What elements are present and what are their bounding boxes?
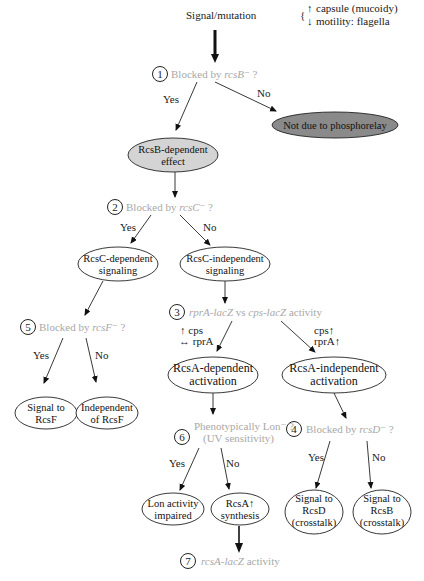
svg-text:1: 1 bbox=[157, 68, 163, 80]
edge-label-yes: Yes bbox=[33, 349, 49, 361]
edge-q1-yes bbox=[176, 82, 197, 130]
svg-text:RcsD: RcsD bbox=[302, 505, 326, 516]
svg-text:synthesis: synthesis bbox=[221, 510, 260, 521]
svg-text:(crosstalk): (crosstalk) bbox=[360, 517, 405, 529]
svg-text:5: 5 bbox=[25, 321, 31, 333]
svg-text:signaling: signaling bbox=[99, 265, 138, 276]
thick-arrowhead-icon bbox=[211, 54, 219, 63]
svg-text:Phenotypically Lon⁻ ?: Phenotypically Lon⁻ ? bbox=[194, 420, 294, 432]
edge-label-yes: Yes bbox=[120, 221, 136, 233]
node-rcsc-dependent: RcsC-dependent signaling bbox=[78, 247, 158, 281]
edge-label-no: No bbox=[203, 221, 217, 233]
svg-text:rcsA-lacZ activity: rcsA-lacZ activity bbox=[201, 555, 280, 567]
edge-q3-left bbox=[217, 321, 232, 351]
root-label: Signal/mutation bbox=[186, 9, 257, 21]
edge-label-no: No bbox=[95, 349, 109, 361]
edge-q4-yes bbox=[316, 441, 330, 488]
node-rcsb-dependent: RcsB-dependent effect bbox=[128, 138, 218, 172]
edge-q3-right bbox=[281, 321, 315, 352]
node-independent-rcsf: Independent of RcsF bbox=[76, 397, 138, 429]
brace-icon: { bbox=[300, 9, 305, 21]
question-4: 4 Blocked by rcsD⁻ ? bbox=[287, 422, 394, 437]
edge-label-yes: Yes bbox=[169, 457, 185, 469]
question-5: 5 Blocked by rcsF⁻ ? bbox=[21, 320, 126, 335]
node-rcsa-dependent: RcsA-dependent activation bbox=[168, 357, 258, 393]
question-7: 7 rcsA-lacZ activity bbox=[181, 554, 281, 569]
svg-text:RcsA↑: RcsA↑ bbox=[226, 498, 255, 509]
q3-right-rpra: rprA↑ bbox=[314, 335, 340, 347]
svg-text:Blocked by rcsB⁻ ?: Blocked by rcsB⁻ ? bbox=[171, 68, 257, 80]
question-6: 6 Phenotypically Lon⁻ ? (UV sensitivity) bbox=[175, 420, 295, 445]
node-not-phosphorelay: Not due to phosphorelay bbox=[272, 112, 398, 138]
node-signal-rcsf: Signal to RcsF bbox=[15, 397, 77, 429]
flowchart: Signal/mutation { ↑ capsule (mucoidy) ↓ … bbox=[0, 0, 424, 581]
root-signal: Signal/mutation { ↑ capsule (mucoidy) ↓ … bbox=[186, 2, 398, 27]
svg-text:effect: effect bbox=[161, 156, 185, 167]
question-2: 2 Blocked by rcsC⁻ ? bbox=[108, 200, 214, 215]
edge-rcsa-indep-q4 bbox=[334, 393, 346, 418]
edge-q6-yes bbox=[180, 448, 199, 490]
up-arrow-icon: ↑ bbox=[307, 2, 313, 14]
svg-text:(UV sensitivity): (UV sensitivity) bbox=[203, 432, 274, 445]
node-lon-impaired: Lon activity impaired bbox=[142, 493, 204, 525]
svg-text:Signal to: Signal to bbox=[295, 493, 333, 504]
svg-text:of RcsF: of RcsF bbox=[91, 414, 124, 425]
svg-text:RcsA-independent: RcsA-independent bbox=[289, 361, 379, 375]
edge-q4-no bbox=[367, 441, 371, 488]
svg-text:6: 6 bbox=[179, 431, 185, 443]
down-arrow-icon: ↓ bbox=[307, 15, 313, 27]
node-rcsa-synthesis: RcsA↑ synthesis bbox=[211, 493, 269, 525]
arrowhead-icon bbox=[235, 543, 243, 553]
svg-text:3: 3 bbox=[174, 306, 180, 318]
edge-rcsc-dep-q5 bbox=[85, 281, 103, 315]
effect-capsule: capsule (mucoidy) bbox=[316, 2, 398, 15]
svg-text:Blocked by rcsD⁻ ?: Blocked by rcsD⁻ ? bbox=[306, 423, 394, 435]
svg-text:4: 4 bbox=[291, 423, 297, 435]
node-signal-rcsd: Signal to RcsD (crosstalk) bbox=[285, 490, 343, 534]
svg-text:Blocked by rcsF⁻ ?: Blocked by rcsF⁻ ? bbox=[39, 321, 125, 333]
svg-text:RcsC-independent: RcsC-independent bbox=[186, 253, 264, 264]
svg-text:RcsB-dependent: RcsB-dependent bbox=[138, 144, 207, 155]
svg-text:RcsF: RcsF bbox=[35, 414, 57, 425]
node-rcsa-independent: RcsA-independent activation bbox=[282, 357, 386, 393]
node-rcsc-independent: RcsC-independent signaling bbox=[180, 247, 270, 281]
question-1: 1 Blocked by rcsB⁻ ? bbox=[153, 67, 258, 82]
svg-text:Lon activity: Lon activity bbox=[147, 498, 199, 509]
svg-text:RcsB: RcsB bbox=[371, 505, 394, 516]
svg-text:Signal to: Signal to bbox=[27, 402, 65, 413]
svg-text:7: 7 bbox=[185, 555, 191, 567]
svg-text:signaling: signaling bbox=[206, 265, 245, 276]
svg-text:Not due to phosphorelay: Not due to phosphorelay bbox=[283, 120, 387, 131]
svg-text:activation: activation bbox=[189, 374, 236, 388]
edge-label-no: No bbox=[257, 87, 271, 99]
svg-text:rprA-lacZ vs cps-lacZ activity: rprA-lacZ vs cps-lacZ activity bbox=[189, 306, 322, 318]
svg-text:activation: activation bbox=[310, 374, 357, 388]
svg-text:RcsC-dependent: RcsC-dependent bbox=[83, 253, 152, 264]
node-signal-rcsb: Signal to RcsB (crosstalk) bbox=[353, 490, 411, 534]
edge-label-yes: Yes bbox=[308, 451, 324, 463]
question-3: 3 rprA-lacZ vs cps-lacZ activity bbox=[170, 305, 323, 320]
svg-text:impaired: impaired bbox=[154, 510, 192, 521]
q3-left-rpra: ↔ rprA bbox=[179, 335, 214, 347]
svg-text:2: 2 bbox=[112, 201, 118, 213]
svg-text:(crosstalk): (crosstalk) bbox=[292, 517, 337, 529]
svg-text:Blocked by rcsC⁻ ?: Blocked by rcsC⁻ ? bbox=[126, 201, 213, 213]
svg-text:Signal to: Signal to bbox=[363, 493, 401, 504]
svg-text:Independent: Independent bbox=[81, 402, 133, 413]
edge-label-no: No bbox=[226, 457, 240, 469]
svg-text:RcsA-dependent: RcsA-dependent bbox=[173, 361, 254, 375]
effect-motility: motility: flagella bbox=[316, 15, 390, 27]
edge-label-no: No bbox=[372, 451, 386, 463]
edge-label-yes: Yes bbox=[163, 93, 179, 105]
